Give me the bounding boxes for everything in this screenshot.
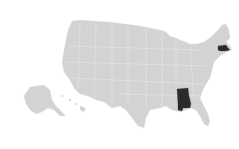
us-map: [0, 0, 239, 149]
contiguous-us: [62, 20, 232, 128]
hawaii: [61, 95, 86, 112]
alaska: [24, 85, 66, 116]
